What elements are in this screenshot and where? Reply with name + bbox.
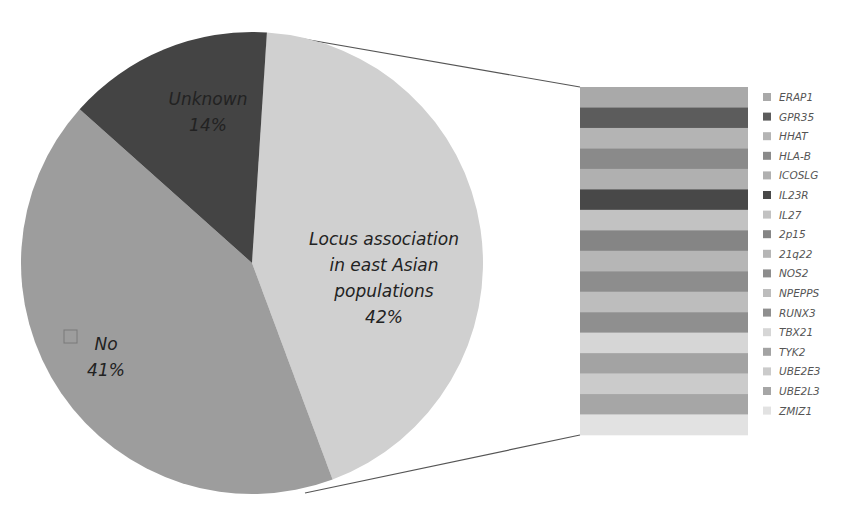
- legend-label: 2p15: [779, 228, 806, 240]
- legend-label: ERAP1: [779, 91, 813, 103]
- legend-swatch-icon: [763, 191, 771, 199]
- legend-swatch-icon: [763, 113, 771, 121]
- legend-item-nos2: NOS2: [763, 267, 809, 279]
- legend-swatch-icon: [763, 387, 771, 395]
- legend-swatch-icon: [763, 230, 771, 238]
- legend-label: RUNX3: [779, 307, 816, 319]
- legend-swatch-icon: [763, 367, 771, 375]
- bar-segment-nos2: [580, 271, 748, 292]
- legend-swatch-icon: [763, 309, 771, 317]
- legend-item-npepps: NPEPPS: [763, 287, 819, 299]
- bar-segment-tyk2: [580, 353, 748, 374]
- legend-swatch-icon: [763, 289, 771, 297]
- bar-segment-erap1: [580, 87, 748, 108]
- legend-item-tyk2: TYK2: [763, 346, 806, 358]
- legend-label: UBE2E3: [779, 365, 821, 377]
- legend-item-erap1: ERAP1: [763, 91, 813, 103]
- legend-label: HLA-B: [779, 150, 811, 162]
- legend-item-21q22: 21q22: [763, 248, 813, 260]
- bar-segment-il23r: [580, 189, 748, 210]
- bar-segment-npepps: [580, 292, 748, 313]
- legend-label: NOS2: [779, 267, 809, 279]
- bar-segment-hhat: [580, 128, 748, 149]
- legend-item-hhat: HHAT: [763, 130, 809, 142]
- legend-item-gpr35: GPR35: [763, 111, 814, 123]
- legend-label: ICOSLG: [779, 169, 818, 181]
- bar-segment-runx3: [580, 312, 748, 333]
- legend-item-hla-b: HLA-B: [763, 150, 811, 162]
- legend-swatch-icon: [763, 171, 771, 179]
- legend-label: TBX21: [779, 326, 813, 338]
- legend-item-ube2e3: UBE2E3: [763, 365, 821, 377]
- legend-label: ZMIZ1: [778, 405, 812, 417]
- legend-label: HHAT: [779, 130, 809, 142]
- breakdown-bar: [580, 87, 748, 435]
- bar-segment-icoslg: [580, 169, 748, 190]
- legend-swatch-icon: [763, 132, 771, 140]
- legend-item-tbx21: TBX21: [763, 326, 813, 338]
- bar-segment-ube2e3: [580, 374, 748, 395]
- legend-swatch-icon: [763, 211, 771, 219]
- legend-swatch-icon: [763, 152, 771, 160]
- legend: ERAP1GPR35HHATHLA-BICOSLGIL23RIL272p1521…: [763, 91, 821, 417]
- bar-segment-il27: [580, 210, 748, 231]
- legend-swatch-icon: [763, 93, 771, 101]
- legend-swatch-icon: [763, 348, 771, 356]
- bar-segment-2p15: [580, 230, 748, 251]
- legend-label: IL23R: [779, 189, 809, 201]
- legend-item-icoslg: ICOSLG: [763, 169, 818, 181]
- legend-item-il23r: IL23R: [763, 189, 809, 201]
- bar-segment-21q22: [580, 251, 748, 272]
- legend-item-il27: IL27: [763, 209, 802, 221]
- legend-label: 21q22: [779, 248, 813, 260]
- bar-of-pie-chart: Locus associationin east Asianpopulation…: [0, 0, 842, 508]
- bar-segment-tbx21: [580, 333, 748, 354]
- bar-segment-zmiz1: [580, 415, 748, 436]
- legend-swatch-icon: [763, 269, 771, 277]
- legend-label: TYK2: [779, 346, 806, 358]
- legend-item-runx3: RUNX3: [763, 307, 816, 319]
- legend-label: NPEPPS: [779, 287, 819, 299]
- bar-segment-gpr35: [580, 107, 748, 128]
- legend-label: GPR35: [779, 111, 814, 123]
- legend-swatch-icon: [763, 250, 771, 258]
- legend-label: UBE2L3: [779, 385, 820, 397]
- bar-segment-hla-b: [580, 148, 748, 169]
- legend-label: IL27: [779, 209, 802, 221]
- legend-item-2p15: 2p15: [763, 228, 806, 240]
- bar-segment-ube2l3: [580, 394, 748, 415]
- legend-swatch-icon: [763, 328, 771, 336]
- legend-swatch-icon: [763, 407, 771, 415]
- legend-item-ube2l3: UBE2L3: [763, 385, 820, 397]
- legend-item-zmiz1: ZMIZ1: [763, 405, 812, 417]
